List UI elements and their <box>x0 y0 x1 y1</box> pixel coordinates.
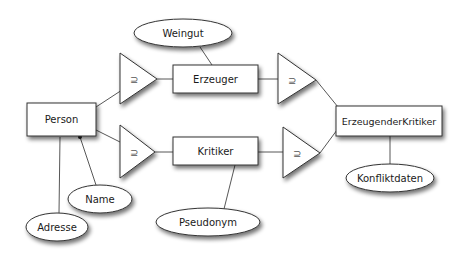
er-diagram-canvas: ⊇ ⊇ ⊇ ⊇ Person Erzeuger Kritiker Erzeuge… <box>0 0 470 263</box>
attribute-adresse[interactable]: Adresse <box>26 213 88 241</box>
entity-label: Erzeuger <box>193 74 239 85</box>
superset-icon: ⊇ <box>288 75 296 86</box>
edge-adresse-person <box>59 137 60 213</box>
specialization-person-erzeuger[interactable]: ⊇ <box>120 53 157 104</box>
entity-erzeugender-kritiker[interactable]: ErzeugenderKritiker <box>336 106 442 136</box>
attribute-pseudonym[interactable]: Pseudonym <box>156 208 260 236</box>
edge-person-spec2 <box>96 130 122 143</box>
attribute-label: Pseudonym <box>179 217 237 228</box>
edge-pseudonym-kritiker <box>224 165 235 209</box>
superset-icon: ⊇ <box>293 148 301 159</box>
edge-name-person <box>80 137 96 185</box>
edge-spec4-ek <box>320 130 337 153</box>
attribute-label: Adresse <box>37 222 77 233</box>
attribute-label: Weingut <box>162 28 203 39</box>
entity-label: Kritiker <box>198 146 235 157</box>
specialization-erzeuger-ek[interactable]: ⊇ <box>278 53 316 104</box>
superset-icon: ⊇ <box>130 74 138 85</box>
attribute-konfliktdaten[interactable]: Konfliktdaten <box>346 164 434 192</box>
entity-label: Person <box>45 114 79 125</box>
attribute-label: Name <box>85 194 115 205</box>
attribute-name[interactable]: Name <box>68 185 132 213</box>
attribute-weingut[interactable]: Weingut <box>134 19 232 47</box>
entity-label: ErzeugenderKritiker <box>342 116 437 127</box>
superset-icon: ⊇ <box>130 147 138 158</box>
edge-weingut-erzeuger <box>200 47 212 65</box>
edge-spec3-ek <box>316 80 338 107</box>
entity-person[interactable]: Person <box>27 103 96 136</box>
edge-person-spec1 <box>96 90 122 107</box>
entity-erzeuger[interactable]: Erzeuger <box>173 65 258 93</box>
entity-kritiker[interactable]: Kritiker <box>173 137 258 165</box>
specialization-kritiker-ek[interactable]: ⊇ <box>283 127 320 178</box>
attribute-label: Konfliktdaten <box>357 173 423 184</box>
specialization-person-kritiker[interactable]: ⊇ <box>120 125 155 178</box>
